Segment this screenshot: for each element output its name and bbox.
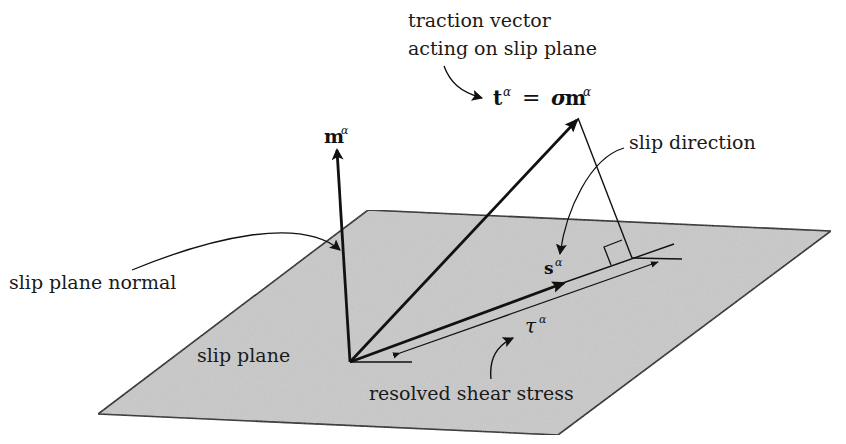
projection-tail (632, 258, 682, 259)
eq-equals: = (522, 85, 540, 110)
traction-pointer-arrow (444, 66, 482, 98)
svg-text:α: α (341, 124, 349, 137)
traction-equation: t α = σ m α (493, 85, 591, 110)
slip-direction-label: slip direction (629, 131, 756, 153)
svg-text:α: α (555, 256, 563, 269)
svg-text:s: s (544, 258, 554, 278)
svg-text:τ: τ (525, 314, 537, 338)
slip-plane-normal-label: slip plane normal (9, 271, 176, 293)
eq-m-sup: α (583, 85, 591, 99)
traction-label-line2: acting on slip plane (408, 37, 597, 59)
slip-system-diagram: traction vector acting on slip plane t α… (0, 0, 846, 444)
traction-label-line1: traction vector (408, 9, 552, 31)
m-vector-label: m α (324, 124, 349, 147)
resolved-shear-stress-label: resolved shear stress (369, 382, 574, 404)
eq-t: t (493, 86, 503, 110)
svg-text:α: α (539, 313, 547, 326)
slip-plane-label: slip plane (197, 344, 290, 366)
eq-t-sup: α (503, 85, 511, 99)
